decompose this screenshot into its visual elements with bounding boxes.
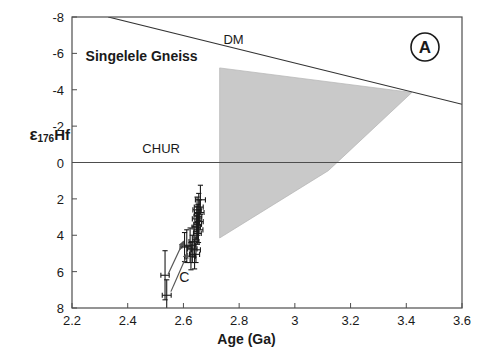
y-tick-label: -8 xyxy=(52,10,64,25)
data-point-group xyxy=(161,185,206,310)
x-tick-label: 3.4 xyxy=(397,313,415,328)
x-tick-label: 3.2 xyxy=(342,313,360,328)
y-tick-label: -6 xyxy=(52,46,64,61)
x-tick-label: 3.6 xyxy=(453,313,471,328)
x-axis-label: Age (Ga) xyxy=(0,331,493,347)
y-tick-label: 4 xyxy=(57,228,64,243)
chart-title-annotation: Singelele Gneiss xyxy=(86,48,198,64)
element-hf: Hf xyxy=(54,126,70,143)
x-tick-label: 2.8 xyxy=(230,313,248,328)
y-tick-label: 0 xyxy=(57,156,64,171)
data-point xyxy=(161,251,169,300)
arrow-label-c: C xyxy=(179,269,189,285)
x-tick-label: 2.6 xyxy=(174,313,192,328)
x-tick-label: 3 xyxy=(291,313,298,328)
y-axis-label: ε176Hf xyxy=(8,125,70,145)
y-tick-label: 8 xyxy=(57,301,64,316)
dm-label: DM xyxy=(223,32,243,47)
x-tick-label: 2.4 xyxy=(119,313,137,328)
x-tick-label: 2.2 xyxy=(63,313,81,328)
y-tick-label: 2 xyxy=(57,192,64,207)
y-tick-label: 6 xyxy=(57,265,64,280)
panel-label: A xyxy=(419,38,431,57)
shaded-evolution-band xyxy=(220,68,412,238)
chur-label: CHUR xyxy=(142,141,180,156)
data-point xyxy=(162,280,171,311)
epsilon-subscript: 176 xyxy=(37,133,54,144)
hf-isotope-evolution-chart: CHURDMSingelele GneissC2.22.42.62.833.23… xyxy=(0,0,493,360)
y-tick-label: -4 xyxy=(52,83,64,98)
